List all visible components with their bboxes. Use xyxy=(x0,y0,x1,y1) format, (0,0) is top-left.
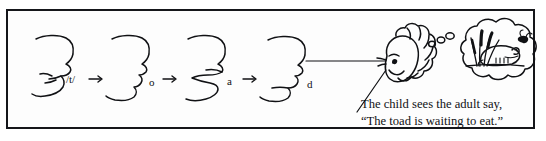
caption-line-2: “The toad is waiting to eat.” xyxy=(361,113,533,130)
face-profile-2-icon xyxy=(106,35,149,100)
arrow-right-icon-3 xyxy=(243,76,256,82)
arrow-right-icon-1 xyxy=(89,76,102,82)
phoneme-label-1: /t/ xyxy=(66,74,75,85)
face-profile-1-icon xyxy=(32,35,73,96)
caption-line-1: The child sees the adult say, xyxy=(361,96,533,113)
phoneme-label-4: d xyxy=(307,79,313,90)
figure-container: /t/ o a d The child sees the adult say, … xyxy=(0,0,546,141)
phoneme-label-2: o xyxy=(149,77,155,88)
thought-bubble-icon xyxy=(461,18,536,79)
face-profile-4-icon xyxy=(260,36,305,101)
face-profile-3-icon xyxy=(186,35,225,100)
phoneme-label-3: a xyxy=(227,76,232,87)
cattail-reeds-icon xyxy=(471,31,499,66)
caption: The child sees the adult say, “The toad … xyxy=(361,96,533,129)
arrow-right-icon-2 xyxy=(163,76,176,82)
child-head-icon xyxy=(377,24,436,82)
